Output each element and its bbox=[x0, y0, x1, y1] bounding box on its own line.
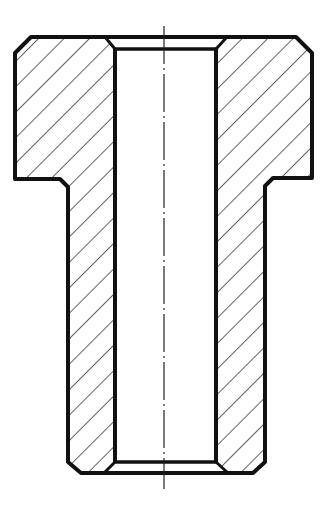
bushing-section-drawing bbox=[0, 0, 328, 506]
left-section-hatch bbox=[15, 37, 115, 473]
